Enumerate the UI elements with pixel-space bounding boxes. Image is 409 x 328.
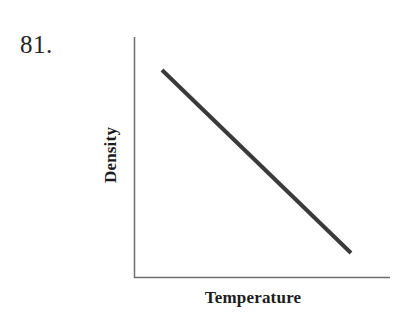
line-chart: Density Temperature [0, 0, 409, 328]
chart-canvas [0, 0, 409, 328]
x-axis-label: Temperature [205, 288, 302, 308]
figure-page: 81. Density Temperature [0, 0, 409, 328]
y-axis-label: Density [101, 127, 121, 183]
data-line-series [162, 70, 351, 253]
